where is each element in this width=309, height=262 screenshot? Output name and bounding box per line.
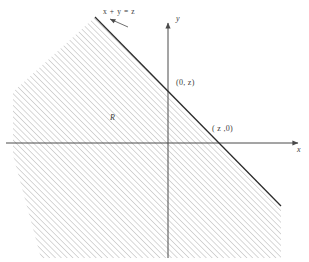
y-axis-label: y bbox=[176, 15, 180, 23]
region-diagram bbox=[0, 0, 309, 262]
figure-container: x + y = z y x (0, z) ( z ,0) R bbox=[0, 0, 309, 262]
y-intercept-label: (0, z) bbox=[176, 79, 195, 87]
x-axis-label: x bbox=[297, 146, 301, 154]
region-label: R bbox=[110, 114, 115, 122]
x-intercept-label: ( z ,0) bbox=[212, 125, 233, 133]
shaded-region-R bbox=[13, 17, 281, 258]
line-equation-label: x + y = z bbox=[103, 8, 135, 16]
